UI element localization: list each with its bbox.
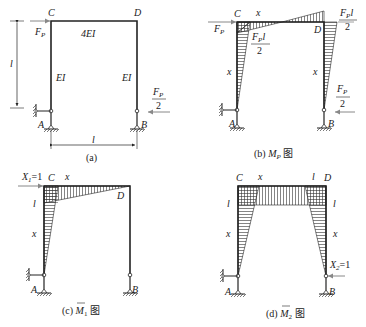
svg-text:x: x xyxy=(31,228,37,239)
moment-right-column xyxy=(324,22,337,110)
svg-text:B: B xyxy=(132,284,138,295)
moment-left-column xyxy=(237,22,250,110)
caption-a: (a) xyxy=(86,152,97,164)
svg-text:l: l xyxy=(312,171,315,182)
svg-text:x: x xyxy=(225,228,231,239)
svg-text:2: 2 xyxy=(340,98,345,109)
node-label: D xyxy=(133,7,142,18)
svg-text:x: x xyxy=(332,228,338,239)
svg-text:A: A xyxy=(30,284,38,295)
load-label-fp: FP xyxy=(34,26,46,39)
panel-b: C D A B x x x FP FPl 2 FPl 2 FP 2 (b) MP… xyxy=(208,7,357,161)
svg-text:C: C xyxy=(236,172,243,183)
unit-load-label: X2=1 xyxy=(329,259,350,272)
svg-text:C: C xyxy=(48,172,55,183)
span-label: l xyxy=(92,134,95,145)
node-label: B xyxy=(141,119,147,130)
panel-a: C D A B 4EI EI EI FP FP 2 l l (a) xyxy=(10,7,170,164)
hinge-support-a xyxy=(44,109,59,132)
caption-c: (c) M1 图 xyxy=(62,305,100,318)
svg-text:A: A xyxy=(224,286,232,297)
svg-text:D: D xyxy=(313,24,322,35)
svg-text:D: D xyxy=(116,190,125,201)
svg-text:x: x xyxy=(257,171,263,182)
svg-text:FP: FP xyxy=(213,23,225,36)
panel-c: C D A B x x l X1=1 (c) M1 图 xyxy=(18,171,138,318)
svg-text:x: x xyxy=(64,171,70,182)
caption-d: (d) M2 图 xyxy=(266,308,305,321)
moment-value-c: FPl xyxy=(251,31,265,44)
unit-load-label: X1=1 xyxy=(21,171,42,184)
svg-text:B: B xyxy=(328,118,334,129)
panel-d: C D A B x x x l l l X2=1 (d) M2 图 xyxy=(220,171,350,321)
svg-text:x: x xyxy=(255,7,261,18)
node-label: C xyxy=(48,7,55,18)
height-label: l xyxy=(10,58,13,69)
left-column-stiffness: EI xyxy=(55,72,66,83)
svg-text:2: 2 xyxy=(345,21,350,32)
svg-text:x: x xyxy=(226,66,232,77)
svg-text:D: D xyxy=(323,172,332,183)
link-support-a xyxy=(33,104,51,117)
svg-text:C: C xyxy=(234,8,241,19)
node-label: A xyxy=(37,119,45,130)
load-label-fp-half-num: FP xyxy=(152,86,164,99)
load-label-fp-half-den: 2 xyxy=(156,100,161,111)
svg-text:x: x xyxy=(312,66,318,77)
moment-value-c: l xyxy=(227,198,230,209)
svg-text:FP: FP xyxy=(336,83,348,96)
moment-beam-pos xyxy=(282,11,324,22)
svg-text:B: B xyxy=(329,286,335,297)
svg-text:2: 2 xyxy=(257,45,262,56)
structural-diagram: C D A B 4EI EI EI FP FP 2 l l (a) C D A … xyxy=(0,0,366,327)
moment-beam xyxy=(238,186,326,205)
svg-text:A: A xyxy=(228,118,236,129)
beam-stiffness-label: 4EI xyxy=(81,28,96,39)
right-column-stiffness: EI xyxy=(121,72,132,83)
moment-value-d: FPl xyxy=(339,7,353,20)
moment-value-c: l xyxy=(33,198,36,209)
moment-value-d: l xyxy=(333,198,336,209)
caption-b: (b) MP 图 xyxy=(254,148,293,161)
